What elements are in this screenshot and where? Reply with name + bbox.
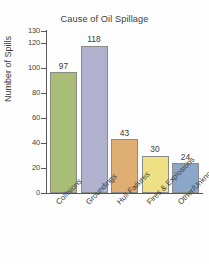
bar-value-label: 118 [87,34,100,44]
y-tick-label: 40 [32,138,40,147]
y-tick-label: 120 [28,38,40,47]
y-tick-label: 20 [32,163,40,172]
y-axis-label: Number of Spills [3,9,13,129]
y-tick-label: 60 [32,113,40,122]
y-tick: 0 [41,193,46,194]
bar-value-label: 30 [150,144,159,154]
bar-value-label: 43 [120,128,129,138]
y-tick-label: 100 [28,63,40,72]
y-tick-mark [41,193,46,194]
chart-title: Cause of Oil Spillage [0,14,209,24]
bar: 118 [81,46,108,193]
y-tick-label: 130 [28,26,40,35]
bar: 97 [50,72,77,193]
bar-value-label: 97 [59,61,68,71]
y-tick-label: 80 [32,88,40,97]
x-axis-category-labels: CollisionsGroundingsHull FailuresFires &… [0,195,209,264]
bar-chart: Cause of Oil Spillage Number of Spills 0… [0,0,209,264]
